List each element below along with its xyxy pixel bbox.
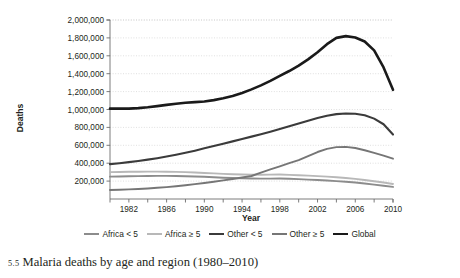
x-axis xyxy=(110,199,393,203)
figure-malaria-deaths: 200,000400,000600,000800,0001,000,0001,2… xyxy=(0,0,460,278)
series-line xyxy=(110,36,393,109)
y-tick-label: 2,000,000 xyxy=(68,16,105,25)
legend-item[interactable]: Africa < 5 xyxy=(84,230,138,238)
y-tick-labels: 200,000400,000600,000800,0001,000,0001,2… xyxy=(68,16,105,186)
y-tick-label: 1,200,000 xyxy=(68,88,105,97)
series-line xyxy=(110,113,393,164)
legend-swatch-icon xyxy=(333,233,348,235)
y-tick-label: 600,000 xyxy=(74,141,104,150)
y-tick-label: 400,000 xyxy=(74,159,104,168)
legend-item[interactable]: Africa ≥ 5 xyxy=(147,230,200,238)
legend-swatch-icon xyxy=(209,233,224,235)
legend-swatch-icon xyxy=(84,233,99,235)
legend-swatch-icon xyxy=(147,233,162,235)
y-tick-label: 1,800,000 xyxy=(68,34,105,43)
series-line xyxy=(110,147,393,190)
chart-svg: 200,000400,000600,000800,0001,000,0001,2… xyxy=(0,0,460,222)
x-tick-label: 1998 xyxy=(271,205,290,214)
x-tick-label: 2002 xyxy=(308,205,327,214)
chart-legend: Africa < 5Africa ≥ 5Other < 5Other ≥ 5Gl… xyxy=(0,230,460,238)
y-tick-label: 800,000 xyxy=(74,123,104,132)
data-series xyxy=(110,36,393,190)
legend-label: Africa ≥ 5 xyxy=(165,230,200,238)
legend-item[interactable]: Other ≥ 5 xyxy=(272,230,325,238)
y-tick-label: 1,000,000 xyxy=(68,106,105,115)
figure-caption: 5.5Malaria deaths by age and region (198… xyxy=(8,256,452,270)
y-tick-label: 1,600,000 xyxy=(68,52,105,61)
x-tick-label: 1986 xyxy=(157,205,176,214)
grid-lines xyxy=(110,20,393,181)
x-axis-title: Year xyxy=(242,213,261,222)
legend-label: Global xyxy=(351,230,375,238)
x-tick-labels: 19821986199019941998200220062010 xyxy=(120,205,403,214)
caption-text: Malaria deaths by age and region (1980–2… xyxy=(22,255,258,269)
x-tick-label: 1990 xyxy=(195,205,214,214)
x-tick-label: 1982 xyxy=(120,205,139,214)
line-chart: 200,000400,000600,000800,0001,000,0001,2… xyxy=(0,0,460,222)
y-axis-title: Deaths xyxy=(15,103,25,132)
legend-swatch-icon xyxy=(272,233,287,235)
y-tick-label: 200,000 xyxy=(74,177,104,186)
x-tick-label: 2010 xyxy=(384,205,403,214)
legend-label: Africa < 5 xyxy=(102,230,138,238)
legend-item[interactable]: Global xyxy=(333,230,375,238)
legend-label: Other < 5 xyxy=(227,230,262,238)
y-tick-label: 1,400,000 xyxy=(68,70,105,79)
legend-item[interactable]: Other < 5 xyxy=(209,230,262,238)
x-tick-label: 2006 xyxy=(346,205,365,214)
legend-label: Other ≥ 5 xyxy=(290,230,325,238)
caption-number: 5.5 xyxy=(8,259,19,268)
